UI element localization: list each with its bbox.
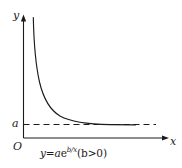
x-axis-label: x [170,136,176,147]
plot-canvas [0,0,182,168]
x-axis-arrowhead [162,135,169,140]
equation-equals-sign: = [46,147,55,159]
y-axis-label: y [13,10,19,21]
equation-caption: y=aeb/x(b>0) [40,146,107,159]
y-axis [21,15,26,139]
y-axis-arrowhead [21,15,26,22]
x-axis [24,135,170,140]
asymptote-value-label: a [12,118,19,129]
equation-condition: (b>0) [77,147,107,159]
equation-exponent: b/x [67,146,77,154]
exponential-decay-curve [33,18,135,125]
origin-label: O [13,141,22,152]
graph-figure: y x O a y=aeb/x(b>0) [0,0,182,168]
